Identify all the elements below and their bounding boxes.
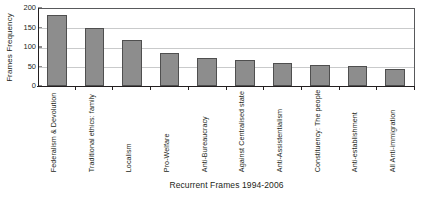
bar-slot	[226, 9, 264, 86]
y-axis-tick-label: 50	[28, 63, 36, 71]
bar	[122, 40, 142, 86]
x-axis-category-label: Anti-establishment	[351, 112, 358, 172]
category-label-slot: All Anti-immigration	[377, 90, 415, 172]
bar-slot	[376, 9, 414, 86]
x-axis-category-label: Constituency: The people	[314, 89, 321, 172]
x-axis-category-label: All Anti-immigration	[389, 109, 396, 172]
bar-slot	[76, 9, 114, 86]
category-label-slot: Against Centralised state	[227, 90, 265, 172]
category-label-slot: Anti-establishment	[340, 90, 378, 172]
y-axis-tick-label: 0	[32, 82, 36, 90]
bar	[273, 63, 293, 86]
bar-slot	[38, 9, 76, 86]
bar	[85, 28, 105, 86]
bar	[310, 65, 330, 86]
x-axis-category-label: Anti-Assistentialism	[276, 109, 283, 172]
category-label-slot: Traditional ethics: family	[76, 90, 114, 172]
bar-chart-figure: Frames Frequency 050100150200 Federalism…	[0, 0, 421, 203]
x-axis-category-label: Pro-Welfare	[163, 133, 170, 172]
y-axis-tick-label: 100	[23, 43, 36, 51]
y-axis-tick-label: 150	[23, 24, 36, 32]
x-axis-category-label: Localism	[125, 143, 132, 172]
bar	[235, 60, 255, 86]
bar	[385, 69, 405, 86]
y-axis-title: Frames Frequency	[0, 0, 18, 95]
category-label-slot: Pro-Welfare	[151, 90, 189, 172]
x-axis-category-label: Federalism & Devolution	[50, 93, 57, 172]
plot-area	[38, 8, 415, 86]
category-label-slot: Localism	[113, 90, 151, 172]
bar-slot	[264, 9, 302, 86]
bar-slot	[151, 9, 189, 86]
y-axis-title-text: Frames Frequency	[5, 13, 14, 82]
x-axis-category-label: Against Centralised state	[238, 91, 245, 172]
bar	[197, 58, 217, 86]
category-label-slot: Constituency: The people	[302, 90, 340, 172]
x-axis-category-label: Traditional ethics: family	[87, 94, 94, 172]
category-label-slot: Federalism & Devolution	[38, 90, 76, 172]
bar-slot	[188, 9, 226, 86]
bar-slot	[339, 9, 377, 86]
bar	[348, 66, 368, 86]
bar-slot	[113, 9, 151, 86]
y-axis-tick-label: 200	[23, 4, 36, 12]
category-label-slot: Anti-Assistentialism	[264, 90, 302, 172]
x-axis-title: Recurrent Frames 1994-2006	[38, 180, 415, 190]
x-axis-category-labels: Federalism & DevolutionTraditional ethic…	[38, 90, 415, 172]
x-axis-category-label: Anti-Bureaucracy	[200, 116, 207, 172]
bar-series	[38, 9, 414, 86]
bar	[47, 15, 67, 86]
bar	[160, 53, 180, 86]
y-axis-tick-labels: 050100150200	[18, 8, 38, 86]
category-label-slot: Anti-Bureaucracy	[189, 90, 227, 172]
plot-inner	[38, 9, 414, 86]
bar-slot	[301, 9, 339, 86]
